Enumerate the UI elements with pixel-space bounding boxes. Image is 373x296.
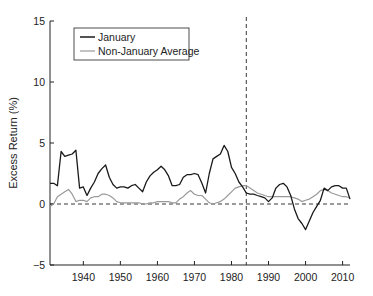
y-axis-title: Excess Return (%) <box>7 97 19 189</box>
y-tick-label: −5 <box>33 259 45 271</box>
x-tick-label: 1940 <box>72 271 96 283</box>
legend-label-january: January <box>98 31 136 43</box>
y-tick-label: 0 <box>39 198 45 210</box>
legend-label-non-january: Non-January Average <box>98 45 200 57</box>
x-tick-label: 1990 <box>257 271 281 283</box>
x-tick-label: 1950 <box>109 271 133 283</box>
series-non-january-average <box>50 186 350 207</box>
x-ticks: 19401950196019701980199020002010 <box>72 261 355 283</box>
x-tick-label: 1970 <box>183 271 207 283</box>
legend: January Non-January Average <box>74 28 200 60</box>
y-tick-label: 10 <box>33 76 45 88</box>
x-tick-label: 2000 <box>294 271 318 283</box>
y-tick-label: 5 <box>39 137 45 149</box>
x-tick-label: 1960 <box>146 271 170 283</box>
line-chart: −5051015 1940195019601970198019902000201… <box>0 0 373 296</box>
x-tick-label: 1980 <box>220 271 244 283</box>
y-tick-label: 15 <box>33 15 45 27</box>
x-tick-label: 2010 <box>331 271 355 283</box>
series-january <box>50 145 350 229</box>
y-ticks: −5051015 <box>33 15 54 271</box>
